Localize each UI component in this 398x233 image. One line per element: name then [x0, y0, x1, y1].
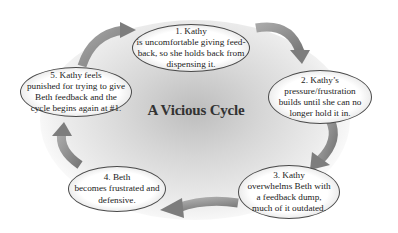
diagram-title: A Vicious Cycle [118, 102, 274, 119]
cycle-node-3: 3. Kathy overwhelms Beth with a feedback… [238, 165, 340, 219]
node-1-text: 1. Kathy is uncomfortable giving feed- b… [137, 26, 246, 71]
arrow-1-to-2-icon [256, 27, 310, 64]
node-2-text: 2. Kathy’s pressure/frustration builds u… [279, 75, 362, 120]
arrow-3-to-4-icon [160, 198, 238, 218]
arrow-4-to-5-icon [52, 122, 80, 165]
arrow-5-to-1-icon [82, 22, 136, 66]
node-4-text: 4. Beth becomes frustrated and defensive… [74, 172, 159, 206]
cycle-node-2: 2. Kathy’s pressure/frustration builds u… [268, 70, 372, 124]
cycle-node-5: 5. Kathy feels punished for trying to gi… [20, 67, 132, 117]
arrow-2-to-3-icon [310, 120, 333, 170]
cycle-node-1: 1. Kathy is uncomfortable giving feed- b… [132, 24, 250, 72]
cycle-node-4: 4. Beth becomes frustrated and defensive… [68, 166, 166, 212]
node-5-text: 5. Kathy feels punished for trying to gi… [27, 70, 125, 115]
node-3-text: 3. Kathy overwhelms Beth with a feedback… [247, 170, 330, 215]
vicious-cycle-diagram: 1. Kathy is uncomfortable giving feed- b… [0, 0, 398, 233]
